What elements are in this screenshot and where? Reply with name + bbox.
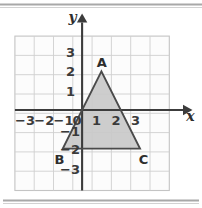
x-tick-label-neg3: −3 (15, 113, 35, 128)
vertex-label-c: C (139, 152, 149, 167)
y-axis-label: y (67, 9, 77, 25)
vertex-label-b: B (55, 152, 65, 167)
y-tick-label-1: 1 (66, 84, 75, 99)
x-tick-label-neg2: −2 (34, 113, 54, 128)
x-tick-label-1: 1 (92, 113, 101, 128)
x-axis-label: x (185, 108, 195, 124)
y-tick-label-neg1: −1 (60, 124, 80, 139)
coordinate-plane-svg: x y 0 −3 −2 −1 1 2 3 3 2 1 −1 −2 −3 A B … (0, 0, 202, 208)
y-axis-arrow (77, 14, 87, 23)
x-tick-label-2: 2 (111, 113, 120, 128)
y-tick-label-3: 3 (66, 45, 75, 60)
y-tick-label-2: 2 (66, 64, 75, 79)
coordinate-plane-figure: x y 0 −3 −2 −1 1 2 3 3 2 1 −1 −2 −3 A B … (0, 0, 202, 208)
vertex-label-a: A (97, 55, 107, 70)
x-tick-label-3: 3 (131, 113, 140, 128)
